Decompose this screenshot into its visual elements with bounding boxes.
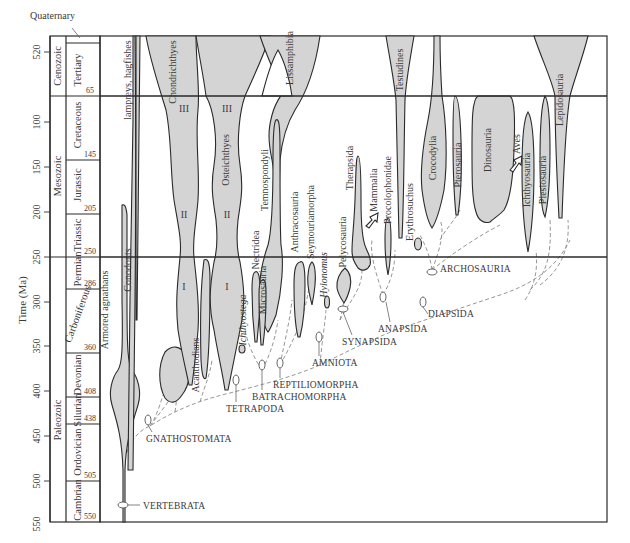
tick-label: 450 [31, 429, 42, 444]
spindle-procolophonidae [385, 218, 391, 275]
spindle-erythrosuchus [415, 238, 422, 250]
label-pelycosauria: Pelycosauria [337, 216, 348, 268]
stage-III-osteichthyes: III [222, 103, 232, 114]
spindle-lampreys [136, 36, 140, 320]
period-end: 145 [84, 150, 96, 159]
tick-150: 150 [31, 160, 50, 175]
tick-label: 350 [31, 339, 42, 354]
stage-III-chondrichthyes: III [179, 103, 189, 114]
label-mammalia: Mammalia [368, 168, 379, 212]
period-cambrian: Cambrian [72, 479, 83, 521]
spindle-acanthodians [200, 260, 210, 379]
tick-300: 300 [31, 295, 50, 310]
stage-II-osteichthyes: II [224, 209, 231, 220]
tick-label: 550 [31, 517, 42, 532]
tick-label: 200 [31, 205, 42, 220]
period-cretaceous: Cretaceous [72, 102, 83, 149]
label-procolophonidae: Procolophonidae [382, 156, 393, 224]
mammalia-arrow-icon [366, 213, 378, 228]
period-jurassic: Jurassic [72, 168, 83, 202]
spindle-crocodylia [421, 36, 446, 228]
label-pterosauria: Pterosauria [452, 142, 463, 188]
period-triassic: Triassic [72, 218, 83, 251]
era-cenozoic: Cenozoic [52, 46, 63, 86]
era-mesozoic: Mesozoic [52, 155, 63, 196]
period-end: 550 [84, 512, 96, 521]
clade-batrachomorpha: BATRACHOMORPHA [252, 392, 347, 402]
clade-diapsida: DIAPSIDA [428, 309, 474, 319]
spindle-pelycosauria [337, 268, 351, 303]
spindle-dinosauria [472, 96, 515, 223]
label-therapsida: Therapsida [344, 145, 355, 190]
tick-label: 100 [31, 115, 42, 130]
tick-450: 450 [31, 429, 50, 444]
spindle-seymouriamorpha [308, 262, 316, 305]
period-end: 360 [84, 343, 96, 352]
spindle-anthracosauria [294, 262, 305, 337]
tick-400: 400 [31, 384, 50, 399]
label-lissamphibia: Lissamphibia [284, 31, 295, 85]
clade-amniota: AMNIOTA [312, 358, 358, 368]
label-dinosauria: Dinosauria [482, 128, 493, 172]
clade-archosauria: ARCHOSAURIA [440, 264, 511, 274]
tick-label: 300 [31, 295, 42, 310]
clade-reptiliomorpha: REPTILIOMORPHA [273, 380, 359, 390]
period-silurian: Silurian [72, 393, 83, 427]
clade-synapsida: SYNAPSIDA [342, 337, 397, 347]
y-axis-title: Time (Ma) [16, 276, 29, 324]
tick-label: 500 [31, 474, 42, 489]
tick-520: 520 [31, 45, 50, 60]
clade-gnathostomata: GNATHOSTOMATA [146, 434, 232, 444]
clade-tetrapoda: TETRAPODA [226, 404, 284, 414]
clade-vertebrata: VERTEBRATA [143, 501, 205, 511]
stage-I-chondrichthyes: I [182, 281, 185, 292]
era-paleozoic: Paleozoic [52, 399, 63, 440]
label-erythrosuchus: Erythrosuchus [404, 183, 415, 241]
period-carboniferous: Carboniferous [62, 284, 93, 344]
label-ichthyostega: Ichthyostega [237, 294, 248, 346]
tick-500: 500 [31, 474, 50, 489]
label-anthracosauria: Anthracosauria [289, 191, 300, 253]
time-axis: 520 100 150 200 250 300 350 400 450 500 … [16, 36, 50, 532]
tick-label: 520 [31, 45, 42, 60]
label-acanthodians: Acanthodians [190, 337, 201, 392]
tick-100: 100 [31, 115, 50, 130]
label-ichthyosauria: Ichthyosauria [521, 152, 532, 207]
label-chondrichthyes: Chondrichthyes [167, 40, 178, 103]
period-ordovician: Ordovician [72, 428, 83, 476]
period-end: 250 [84, 247, 96, 256]
label-microsauria: Microsauria [257, 265, 268, 314]
tick-label: 150 [31, 160, 42, 175]
label-hylonomus: Hylonomus [318, 252, 329, 299]
period-end: 65 [86, 86, 94, 95]
tick-200: 200 [31, 205, 50, 220]
geologic-timescale: Quaternary Cenozoic Mesozoic Paleozoic T… [30, 10, 100, 522]
period-end: 505 [84, 471, 96, 480]
label-conodonts: Conodonts [122, 248, 133, 291]
tick-250: 250 [31, 250, 50, 265]
label-testudines: Testudines [394, 49, 405, 92]
label-nectridea: Nectridea [250, 230, 261, 269]
label-osteichthyes: Osteichthyes [220, 134, 231, 186]
label-seymouriamorpha: Seymouriamorpha [305, 185, 316, 259]
period-devonian: Devonian [72, 354, 83, 396]
tick-label: 250 [31, 250, 42, 265]
label-crocodylia: Crocodylia [427, 135, 438, 180]
period-end: 438 [84, 414, 96, 423]
period-end: 205 [84, 204, 96, 213]
spindle-diagram: 520 100 150 200 250 300 350 400 450 500 … [0, 0, 630, 543]
tick-350: 350 [31, 339, 50, 354]
period-tertiary: Tertiary [72, 53, 83, 87]
stage-II-chondrichthyes: II [181, 209, 188, 220]
label-lampreys: lampreys, hagfishes [122, 40, 133, 120]
period-permian: Permian [72, 251, 83, 287]
tick-550: 550 [31, 517, 42, 532]
label-temnospondyli: Temnospondyli [259, 149, 270, 211]
tick-label: 400 [31, 384, 42, 399]
quaternary-label: Quaternary [30, 10, 75, 21]
label-lepidosauria: Lepidosauria [554, 73, 565, 126]
clade-anapsida: ANAPSIDA [378, 324, 428, 334]
period-end: 408 [84, 387, 96, 396]
label-plesiosauria: Plesiosauria [537, 155, 548, 204]
stage-I-osteichthyes: I [225, 281, 228, 292]
